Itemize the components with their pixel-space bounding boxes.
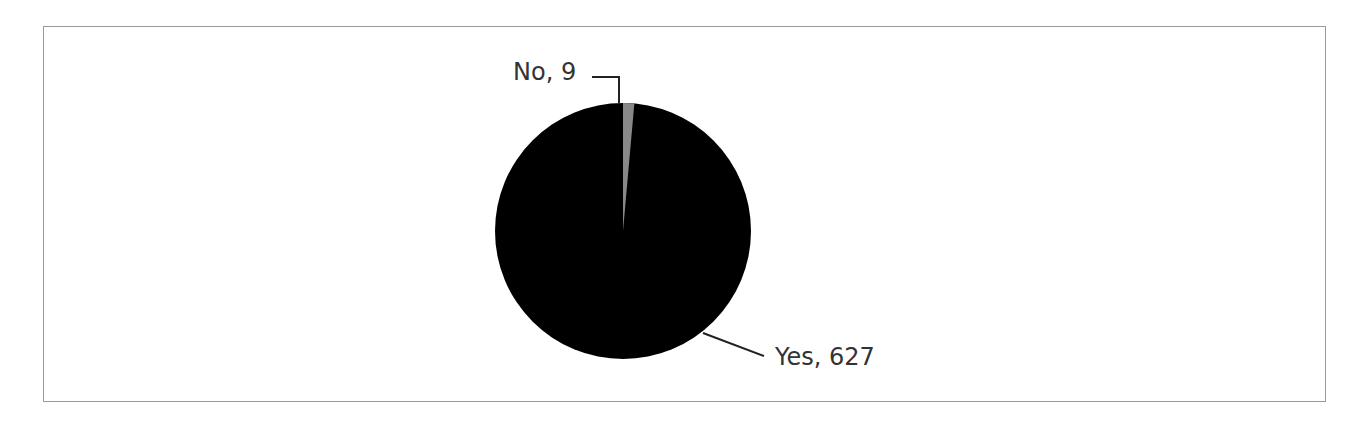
data-label-yes: Yes, 627	[775, 345, 875, 369]
leader-line-yes	[703, 333, 764, 356]
data-label-no: No, 9	[513, 60, 576, 84]
pie-chart	[0, 0, 1365, 421]
leader-line-no	[592, 77, 619, 103]
